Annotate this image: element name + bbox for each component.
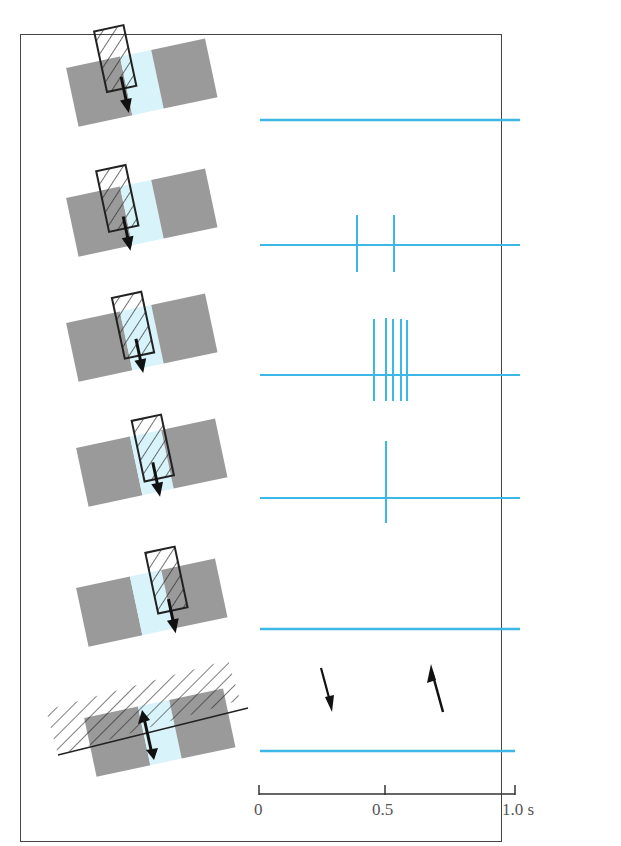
stimulus-row-3 <box>63 279 219 387</box>
time-axis <box>259 785 515 795</box>
axis-tick-0: 0 <box>254 800 263 820</box>
trace-row-2 <box>260 215 520 272</box>
direction-arrows <box>321 664 443 712</box>
axis-tick-1-0-s: 1.0 s <box>502 800 534 820</box>
stimulus-row-2 <box>62 149 219 262</box>
stimulus-row-6 <box>46 660 248 777</box>
stimulus-row-1 <box>60 9 218 127</box>
trace-row-4 <box>260 441 520 523</box>
trace-row-3 <box>260 318 520 401</box>
stimulus-row-4 <box>73 404 229 512</box>
stimulus-row-5 <box>72 539 229 652</box>
figure-svg <box>0 0 621 846</box>
axis-tick-0-5: 0.5 <box>372 800 393 820</box>
